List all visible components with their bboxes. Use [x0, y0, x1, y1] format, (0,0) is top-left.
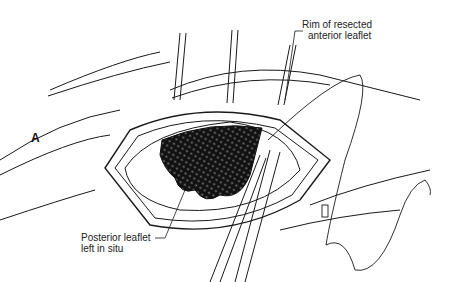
surgical-illustration: A Rim of resected anterior leaflet Poste…	[0, 0, 452, 282]
panel-label: A	[31, 131, 40, 145]
label-posterior-leaflet: Posterior leaflet left in situ	[81, 232, 150, 254]
label-rim-resected: Rim of resected anterior leaflet	[302, 19, 372, 41]
mitral-valve-drawing	[0, 0, 452, 282]
